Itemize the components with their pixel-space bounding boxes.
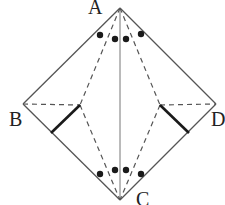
label-C: C — [136, 188, 149, 205]
edge-BC — [23, 104, 120, 200]
angle-dot-A-2 — [112, 36, 118, 42]
edge-AB — [23, 8, 120, 104]
crease-left-C — [80, 105, 120, 200]
crease-B-left — [23, 104, 80, 105]
label-D: D — [211, 108, 225, 130]
angle-dot-C-1 — [97, 171, 103, 177]
angle-dot-C-4 — [138, 171, 144, 177]
crease-right-D — [160, 104, 216, 105]
angle-dot-A-4 — [138, 31, 144, 37]
crease-A-right — [120, 8, 160, 105]
thick-segment-left — [51, 105, 80, 133]
geometry-diagram: A B C D — [0, 0, 225, 205]
angle-dot-C-2 — [112, 167, 118, 173]
edge-CD — [120, 104, 216, 200]
angle-dot-C-3 — [123, 167, 129, 173]
crease-A-left — [80, 8, 120, 105]
angle-dot-A-3 — [123, 36, 129, 42]
label-B: B — [9, 108, 22, 130]
label-A: A — [88, 0, 103, 18]
thick-segment-right — [160, 105, 189, 133]
crease-right-C — [120, 105, 160, 200]
edge-DA — [120, 8, 216, 104]
angle-dot-A-1 — [97, 32, 103, 38]
